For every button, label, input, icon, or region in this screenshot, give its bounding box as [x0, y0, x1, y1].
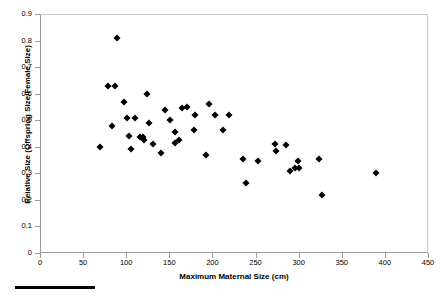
scatter-chart: 00.10.20.30.40.50.60.70.80.9 05010015020…	[0, 0, 446, 300]
y-tick-mark	[35, 41, 40, 42]
x-tick-label: 0	[25, 259, 55, 267]
y-tick-mark	[35, 147, 40, 148]
plot-area	[40, 14, 428, 253]
x-tick-label: 450	[413, 259, 443, 267]
y-tick-mark	[35, 94, 40, 95]
y-tick-label: 0	[4, 249, 32, 257]
y-tick-mark	[35, 226, 40, 227]
y-tick-mark	[35, 200, 40, 201]
y-axis-title: Relative Size (Offspring Size/Female Siz…	[23, 5, 32, 245]
x-tick-label: 300	[284, 259, 314, 267]
x-tick-label: 200	[197, 259, 227, 267]
x-tick-label: 100	[111, 259, 141, 267]
y-tick-mark	[35, 120, 40, 121]
x-tick-label: 400	[370, 259, 400, 267]
x-tick-label: 350	[327, 259, 357, 267]
y-tick-mark	[35, 14, 40, 15]
x-tick-label: 50	[68, 259, 98, 267]
y-tick-mark	[35, 67, 40, 68]
scale-bar	[15, 286, 95, 289]
x-tick-label: 250	[241, 259, 271, 267]
y-tick-mark	[35, 173, 40, 174]
x-axis-title: Maximum Maternal Size (cm)	[40, 272, 428, 281]
x-tick-label: 150	[154, 259, 184, 267]
